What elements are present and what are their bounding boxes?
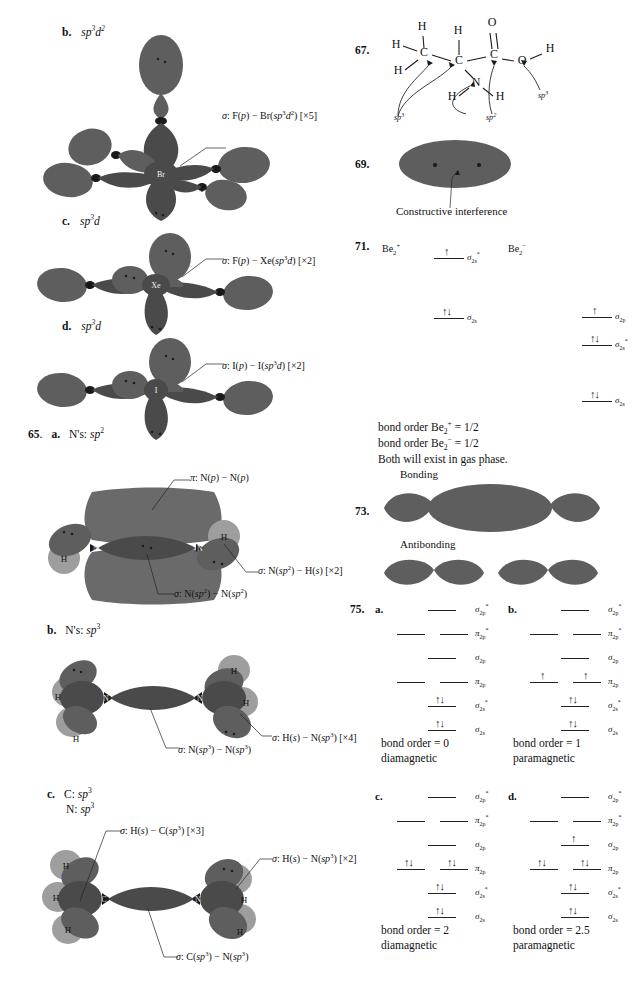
problem-65-c-header-2: N: sp3 xyxy=(66,799,94,817)
problem-71-number: 71. xyxy=(355,240,369,252)
problem-75-a-marker: a. xyxy=(375,603,383,615)
svg-text:C: C xyxy=(455,53,463,67)
annotation-sigma-n-h: σ: N(sp2) − H(s) [×2] xyxy=(258,565,343,577)
label-antibonding: Antibonding xyxy=(400,538,456,550)
caption-constructive-interference: Constructive interference xyxy=(396,205,507,217)
bond-order-be2-plus: bond order Be2+ = 1/2 xyxy=(378,421,479,433)
svg-text:H: H xyxy=(243,698,250,708)
svg-text:H: H xyxy=(73,734,80,744)
svg-text:H: H xyxy=(496,89,505,103)
bond-order-be2-minus: bond order Be2− = 1/2 xyxy=(378,437,479,449)
problem-67-number: 67. xyxy=(355,44,369,56)
label-bonding: Bonding xyxy=(400,468,438,480)
svg-text:C: C xyxy=(490,47,498,61)
gas-phase-statement: Both will exist in gas phase. xyxy=(378,453,508,465)
part-marker-c: c. sp3d xyxy=(62,211,100,229)
svg-text:H: H xyxy=(63,861,70,871)
svg-text:N: N xyxy=(103,694,109,703)
annotation-sigma-h-n-sp3: σ: H(s) − N(sp3) [×4] xyxy=(272,732,357,744)
problem-73-number: 73. xyxy=(355,505,369,517)
orbital-diagram-brf5: Br F F F F xyxy=(30,35,280,210)
svg-text:Br: Br xyxy=(157,170,165,179)
svg-text:H: H xyxy=(546,41,555,55)
problem-75-c-marker: c. xyxy=(375,790,383,802)
annotation-sigma-h-n-sp3-x2: σ: H(s) − N(sp3) [×2] xyxy=(272,853,357,865)
svg-text:sp3: sp3 xyxy=(394,112,404,122)
bond-order-75a: bond order = 0 xyxy=(381,737,449,749)
svg-text:F: F xyxy=(87,281,92,291)
svg-text:N: N xyxy=(195,895,201,904)
svg-text:sp2: sp2 xyxy=(486,112,496,122)
annotation-sigma-n-n-sp3: σ: N(sp3) − N(sp3) xyxy=(178,744,251,756)
svg-text:N: N xyxy=(472,75,481,89)
svg-text:F: F xyxy=(214,165,219,175)
bond-order-75d: bond order = 2.5 xyxy=(513,924,590,936)
svg-text:H: H xyxy=(241,895,248,905)
magnetism-75b: paramagnetic xyxy=(513,752,575,764)
magnetism-75d: paramagnetic xyxy=(513,939,575,951)
orbital-diagram-antibonding-mo xyxy=(382,553,602,593)
svg-text:H: H xyxy=(231,666,238,676)
orbital-diagram-ch3nh2: H H H H H C N xyxy=(28,845,278,965)
part-marker-d: d. sp3d xyxy=(62,316,101,334)
structure-67-alanine: H H H C H C O C O H N H H sp3 sp2 sp3 xyxy=(382,8,572,120)
svg-text:O: O xyxy=(488,15,497,29)
svg-text:N: N xyxy=(197,544,203,553)
orbital-diagram-n2h4: H H H H N N xyxy=(28,648,278,758)
svg-text:H: H xyxy=(61,554,68,564)
svg-text:F: F xyxy=(217,288,222,298)
svg-text:F: F xyxy=(113,151,118,161)
problem-75-d-marker: d. xyxy=(508,790,517,802)
svg-text:H: H xyxy=(392,37,401,51)
bond-order-75b: bond order = 1 xyxy=(513,737,581,749)
problem-65-a-header: 65. a. N's: sp2 xyxy=(28,424,104,442)
annotation-sigma-h-c-sp3: σ: H(s) − C(sp3) [×3] xyxy=(120,825,204,837)
svg-text:I: I xyxy=(155,386,158,395)
problem-65-b-header: b. N's: sp3 xyxy=(47,620,100,638)
svg-text:Xe: Xe xyxy=(151,281,161,290)
svg-text:H: H xyxy=(237,927,244,937)
magnetism-75a: diamagnetic xyxy=(381,752,437,764)
svg-text:O: O xyxy=(518,53,527,67)
annotation-sigma-i-i: σ: I(p) − I(sp3d) [×2] xyxy=(222,360,305,372)
orbital-diagram-bonding-mo xyxy=(382,483,602,533)
svg-text:H: H xyxy=(65,925,72,935)
svg-text:H: H xyxy=(418,19,427,33)
problem-75-b-marker: b. xyxy=(508,603,517,615)
svg-text:N: N xyxy=(93,544,99,553)
magnetism-75c: diamagnetic xyxy=(381,939,437,951)
svg-text:H: H xyxy=(454,23,463,37)
annotation-pi-n-n: π: N(p) − N(p) xyxy=(190,472,249,484)
annotation-sigma-n-n-sp2: σ: N(sp2) − N(sp2) xyxy=(174,588,247,600)
problem-69-number: 69. xyxy=(355,158,369,170)
problem-75-number: 75. xyxy=(350,603,364,615)
annotation-sigma-f-xe: σ: F(p) − Xe(sp3d) [×2] xyxy=(222,255,315,267)
svg-text:sp3: sp3 xyxy=(538,90,548,100)
svg-text:H: H xyxy=(53,893,60,903)
svg-text:H: H xyxy=(55,692,62,702)
svg-text:H: H xyxy=(221,532,228,542)
species-label-be2-plus: Be2+ xyxy=(382,243,400,254)
svg-text:N: N xyxy=(197,694,203,703)
svg-text:H: H xyxy=(394,63,403,77)
annotation-sigma-f-br: σ: F(p) − Br(sp3d2) [×5] xyxy=(222,110,317,122)
svg-text:F: F xyxy=(200,184,205,194)
svg-text:C: C xyxy=(101,895,106,904)
species-label-be2-minus: Be2− xyxy=(508,243,526,254)
svg-text:F: F xyxy=(93,174,98,184)
bond-order-75c: bond order = 2 xyxy=(381,924,449,936)
annotation-sigma-c-n-sp3: σ: C(sp3) − N(sp3) xyxy=(176,951,249,963)
